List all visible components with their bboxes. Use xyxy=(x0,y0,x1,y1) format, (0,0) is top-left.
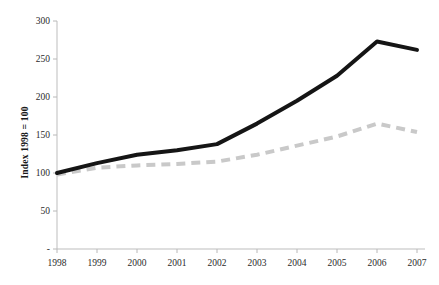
x-axis-tick-label: 2003 xyxy=(248,258,267,268)
axis-lines xyxy=(57,21,425,249)
y-axis-tick-label: 50 xyxy=(18,206,50,216)
x-axis-tick-label: 2000 xyxy=(128,258,147,268)
y-axis-title: Index 1998 = 100 xyxy=(12,0,38,285)
x-axis-tick-label: 1999 xyxy=(88,258,107,268)
y-axis-tick-label: 250 xyxy=(18,54,50,64)
x-axis-tick-label: 2006 xyxy=(368,258,387,268)
solid-black-series-line xyxy=(57,42,417,173)
x-axis-tick-label: 2007 xyxy=(408,258,427,268)
x-axis-ticks xyxy=(57,249,417,253)
dashed-gray-series-line xyxy=(57,124,417,175)
y-axis-tick-label: 100 xyxy=(18,168,50,178)
line-chart: Index 1998 = 100 -50100150200250300 1998… xyxy=(0,0,439,285)
y-axis-tick-label: 150 xyxy=(18,130,50,140)
x-axis-tick-label: 2004 xyxy=(288,258,307,268)
y-axis-ticks xyxy=(53,21,57,249)
x-axis-tick-label: 2002 xyxy=(208,258,227,268)
y-axis-tick-label: - xyxy=(18,244,50,254)
y-axis-tick-label: 200 xyxy=(18,92,50,102)
x-axis-tick-label: 1998 xyxy=(48,258,67,268)
y-axis-tick-label: 300 xyxy=(18,16,50,26)
plot-area xyxy=(0,0,439,285)
x-axis-tick-label: 2005 xyxy=(328,258,347,268)
x-axis-tick-label: 2001 xyxy=(168,258,187,268)
